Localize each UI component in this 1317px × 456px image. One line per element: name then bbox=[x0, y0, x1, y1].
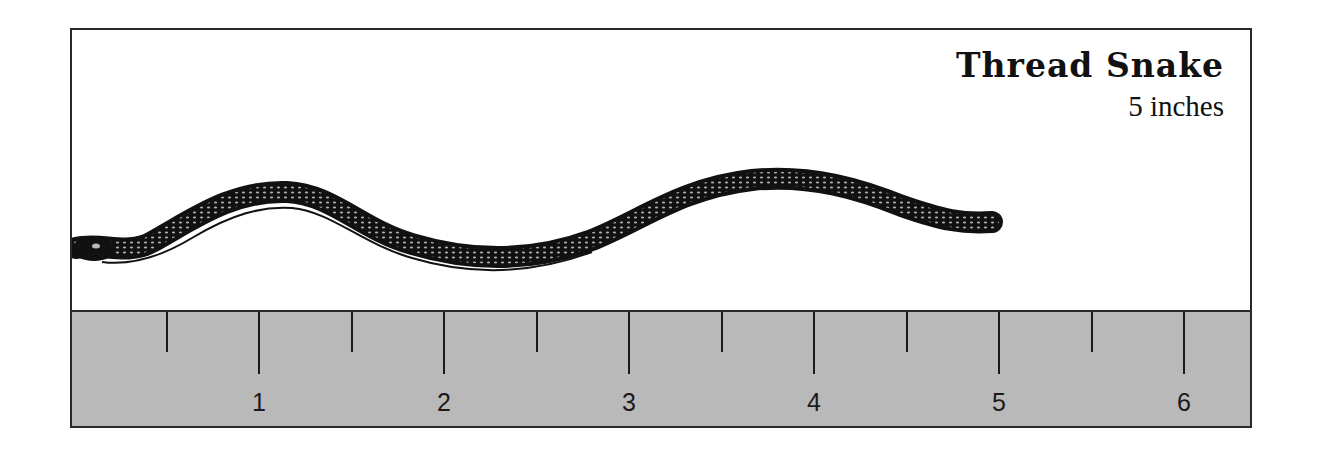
ruler-tick-minor bbox=[536, 312, 538, 352]
ruler-tick-minor bbox=[351, 312, 353, 352]
ruler-tick-minor bbox=[721, 312, 723, 352]
ruler-tick-major bbox=[1183, 312, 1185, 374]
ruler-tick-minor bbox=[1091, 312, 1093, 352]
ruler-tick-major bbox=[258, 312, 260, 374]
ruler-tick-major bbox=[443, 312, 445, 374]
ruler-tick-minor bbox=[166, 312, 168, 352]
thread-snake-illustration bbox=[72, 30, 1250, 310]
ruler-tick-minor bbox=[906, 312, 908, 352]
illustration-frame: Thread Snake 5 inches 123456 bbox=[70, 28, 1252, 428]
snake-head bbox=[72, 237, 116, 261]
ruler-tick-major bbox=[628, 312, 630, 374]
ruler-tick-major bbox=[813, 312, 815, 374]
ruler-label: 5 bbox=[979, 388, 1019, 417]
inch-ruler: 123456 bbox=[72, 310, 1250, 426]
ruler-label: 3 bbox=[609, 388, 649, 417]
ruler-label: 6 bbox=[1164, 388, 1204, 417]
ruler-label: 2 bbox=[424, 388, 464, 417]
ruler-tick-major bbox=[998, 312, 1000, 374]
ruler-label: 1 bbox=[239, 388, 279, 417]
ruler-label: 4 bbox=[794, 388, 834, 417]
